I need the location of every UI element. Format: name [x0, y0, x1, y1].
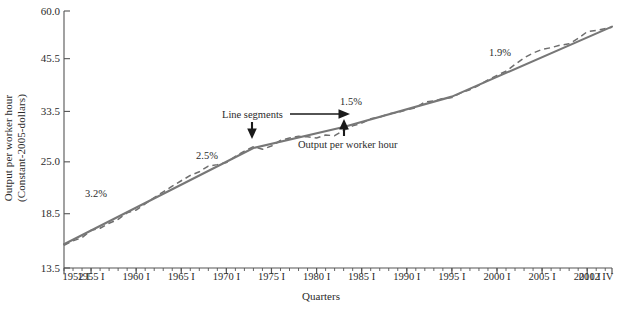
annotation-growth-rate-1: 3.2% [85, 188, 107, 200]
annotation-line-segments-label: Line segments [222, 109, 283, 121]
arrow-up-output-per-worker-hour-head [339, 119, 349, 130]
arrow-down-line-segments-head [247, 129, 257, 140]
annotation-growth-rate-4: 1.9% [489, 47, 511, 59]
x-tick-label: 1970 I [213, 271, 240, 283]
x-tick-label: 2000 I [483, 271, 510, 283]
x-tick-label: 2012 IV [579, 271, 614, 283]
x-tick-label: 1995 I [438, 271, 465, 283]
annotation-growth-rate-2: 2.5% [196, 150, 218, 162]
plot-area [0, 0, 642, 311]
annotation-growth-rate-3: 1.5% [340, 96, 362, 108]
x-axis-tick-labels: 1952 I1955 I1960 I1965 I1970 I1975 I1980… [0, 271, 642, 287]
x-tick-label: 1960 I [123, 271, 150, 283]
x-tick-label: 1990 I [393, 271, 420, 283]
x-axis-title: Quarters [0, 290, 642, 302]
chart-figure: Output per worker hour (Constant-2005-do… [0, 0, 642, 311]
x-tick-label: 1985 I [348, 271, 375, 283]
arrow-right-line-segments-head [339, 109, 351, 119]
x-tick-label: 1980 I [303, 271, 330, 283]
x-tick-label: 1955 I [77, 271, 104, 283]
y-axis-ticks [64, 11, 70, 268]
annotation-output-per-worker-hour-label: Output per worker hour [298, 139, 397, 151]
x-tick-label: 1975 I [258, 271, 285, 283]
series-line-segments [64, 27, 612, 245]
x-tick-label: 1965 I [168, 271, 195, 283]
x-tick-label: 2005 I [529, 271, 556, 283]
series-output-per-worker-hour [64, 27, 612, 245]
